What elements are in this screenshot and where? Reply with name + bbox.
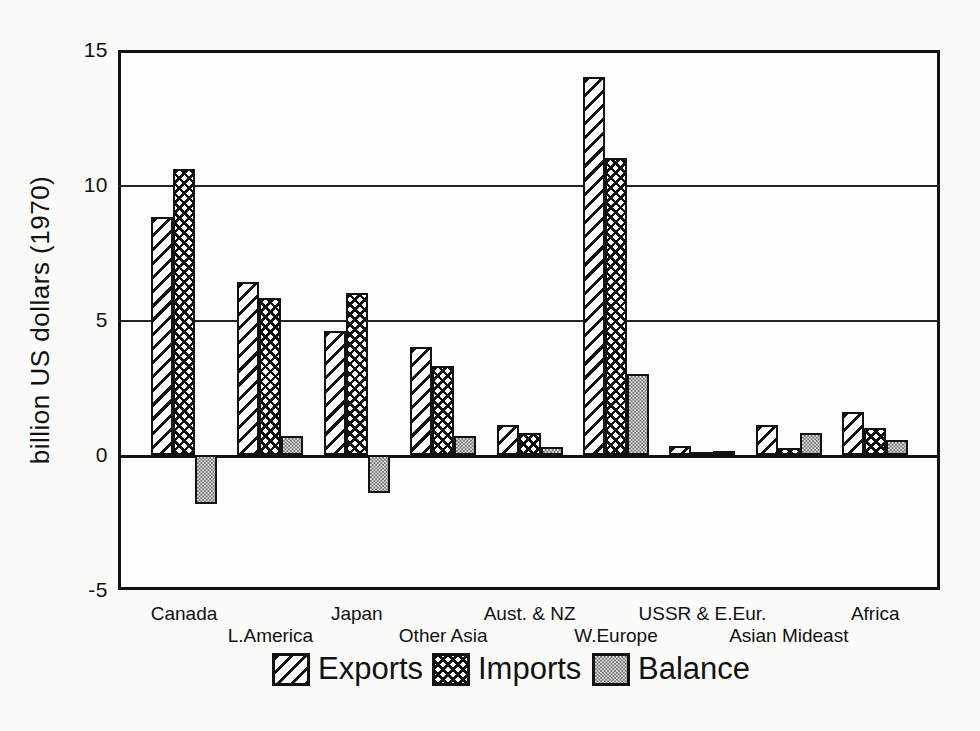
x-label-aust-nz: Aust. & NZ xyxy=(484,603,576,625)
legend-label-imports: Imports xyxy=(478,651,581,687)
bar-exports-ussr-e-eur xyxy=(669,446,691,455)
y-tick-5: 5 xyxy=(56,308,108,332)
bar-balance-africa xyxy=(886,440,908,455)
y-tick-15: 15 xyxy=(56,38,108,62)
bar-imports-canada xyxy=(173,169,195,455)
bar-exports-canada xyxy=(151,217,173,455)
bar-exports-l-america xyxy=(237,282,259,455)
trade-bar-chart: billion US dollars (1970) 151050-5 Canad… xyxy=(0,0,980,731)
x-label-asian-mideast: Asian Mideast xyxy=(729,625,848,647)
x-label-other-asia: Other Asia xyxy=(399,625,488,647)
exports-hatch-swatch-icon xyxy=(272,653,310,686)
bar-exports-other-asia xyxy=(410,347,432,455)
bar-imports-aust-nz xyxy=(519,433,541,455)
bar-exports-aust-nz xyxy=(497,425,519,455)
bar-balance-l-america xyxy=(281,436,303,455)
imports-crosshatch-swatch-icon xyxy=(432,653,470,686)
x-label-l-america: L.America xyxy=(228,625,314,647)
balance-stipple-swatch-icon xyxy=(592,653,630,686)
y-axis-title: billion US dollars (1970) xyxy=(25,176,56,465)
bar-exports-japan xyxy=(324,331,346,455)
bar-balance-canada xyxy=(195,455,217,504)
y-tick-10: 10 xyxy=(56,173,108,197)
y-tick--5: -5 xyxy=(56,578,108,602)
y-tick-0: 0 xyxy=(56,443,108,467)
bar-imports-w-europe xyxy=(605,158,627,455)
legend-label-exports: Exports xyxy=(318,651,423,687)
bar-imports-other-asia xyxy=(432,366,454,455)
x-label-africa: Africa xyxy=(851,603,900,625)
zero-baseline xyxy=(118,455,940,458)
bar-balance-asian-mideast xyxy=(800,433,822,455)
bar-balance-ussr-e-eur xyxy=(713,451,735,455)
legend-label-balance: Balance xyxy=(638,651,750,687)
bar-balance-w-europe xyxy=(627,374,649,455)
bar-imports-africa xyxy=(864,428,886,455)
bar-imports-asian-mideast xyxy=(778,448,800,455)
x-label-ussr-e-eur: USSR & E.Eur. xyxy=(639,603,767,625)
bar-balance-aust-nz xyxy=(541,447,563,455)
x-label-japan: Japan xyxy=(331,603,383,625)
bar-exports-africa xyxy=(842,412,864,455)
bar-imports-japan xyxy=(346,293,368,455)
bar-imports-ussr-e-eur xyxy=(691,452,713,456)
bar-balance-other-asia xyxy=(454,436,476,455)
bar-exports-asian-mideast xyxy=(756,425,778,455)
gridline-10 xyxy=(118,185,940,187)
bar-balance-japan xyxy=(368,455,390,493)
x-label-canada: Canada xyxy=(151,603,218,625)
bar-imports-l-america xyxy=(259,298,281,455)
bar-exports-w-europe xyxy=(583,77,605,455)
x-label-w-europe: W.Europe xyxy=(574,625,657,647)
